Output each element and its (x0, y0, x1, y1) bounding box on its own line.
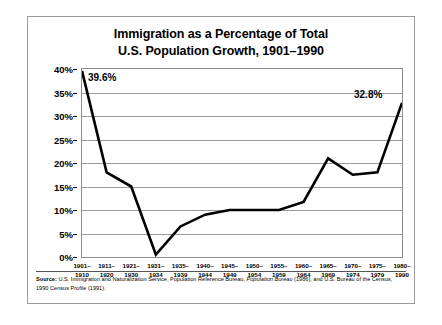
source-label: Source: (36, 276, 57, 282)
y-axis-tick-label: 25% (54, 134, 73, 145)
y-axis-tick-mark (73, 257, 77, 258)
y-axis-tick-label: 15% (54, 181, 73, 192)
y-axis-tick-mark (73, 234, 77, 235)
x-tick-start-year: 1921– (123, 261, 140, 270)
source-italic-title: Population Bureau (247, 276, 293, 282)
y-axis-tick-label: 10% (54, 205, 73, 216)
x-tick-start-year: 1950– (246, 261, 263, 270)
y-axis-tick-label: 40% (54, 64, 73, 75)
title-line-2: U.S. Population Growth, 1901–1990 (28, 43, 414, 60)
x-tick-start-year: 1935– (172, 261, 189, 270)
source-text: U.S. Immigration and Naturalization Serv… (36, 276, 392, 291)
x-tick-start-year: 1975– (369, 261, 386, 270)
x-tick-start-year: 1901– (73, 261, 90, 270)
plot-area-wrapper: 0%5%10%15%20%25%30%35%40% 39.6%32.8% 190… (28, 68, 416, 268)
y-axis-tick-mark (73, 163, 77, 164)
y-axis-tick-label: 35% (54, 87, 73, 98)
data-point-label: 32.8% (354, 89, 382, 100)
y-axis-tick-mark (73, 187, 77, 188)
x-tick-start-year: 1931– (147, 261, 164, 270)
chart-figure: Immigration as a Percentage of Total U.S… (27, 16, 415, 304)
plot-box: 39.6%32.8% (81, 68, 403, 258)
page-title: Immigration as a Percentage of Total U.S… (28, 17, 414, 59)
source-divider (36, 271, 406, 272)
y-axis-tick-mark (73, 69, 77, 70)
y-axis-tick-label: 5% (59, 228, 73, 239)
y-axis-tick-mark (73, 210, 77, 211)
title-line-1: Immigration as a Percentage of Total (28, 26, 414, 43)
x-tick-start-year: 1940– (196, 261, 213, 270)
x-tick-start-year: 1965– (320, 261, 337, 270)
y-axis: 0%5%10%15%20%25%30%35%40% (28, 68, 77, 258)
y-axis-tick-label: 0% (59, 252, 73, 263)
x-tick-start-year: 1980– (393, 261, 410, 270)
y-axis-tick-mark (73, 140, 77, 141)
x-tick-start-year: 1970– (344, 261, 361, 270)
y-axis-tick-label: 30% (54, 111, 73, 122)
x-tick-start-year: 1960– (295, 261, 312, 270)
source-text-part1: U.S. Immigration and Naturalization Serv… (58, 276, 246, 282)
source-note: Source: U.S. Immigration and Naturalizat… (36, 275, 406, 293)
y-axis-tick-mark (73, 116, 77, 117)
x-tick-start-year: 1945– (221, 261, 238, 270)
x-tick-start-year: 1911– (98, 261, 115, 270)
data-point-label: 39.6% (88, 72, 116, 83)
y-axis-tick-label: 20% (54, 158, 73, 169)
y-axis-tick-mark (73, 93, 77, 94)
x-tick-start-year: 1955– (270, 261, 287, 270)
